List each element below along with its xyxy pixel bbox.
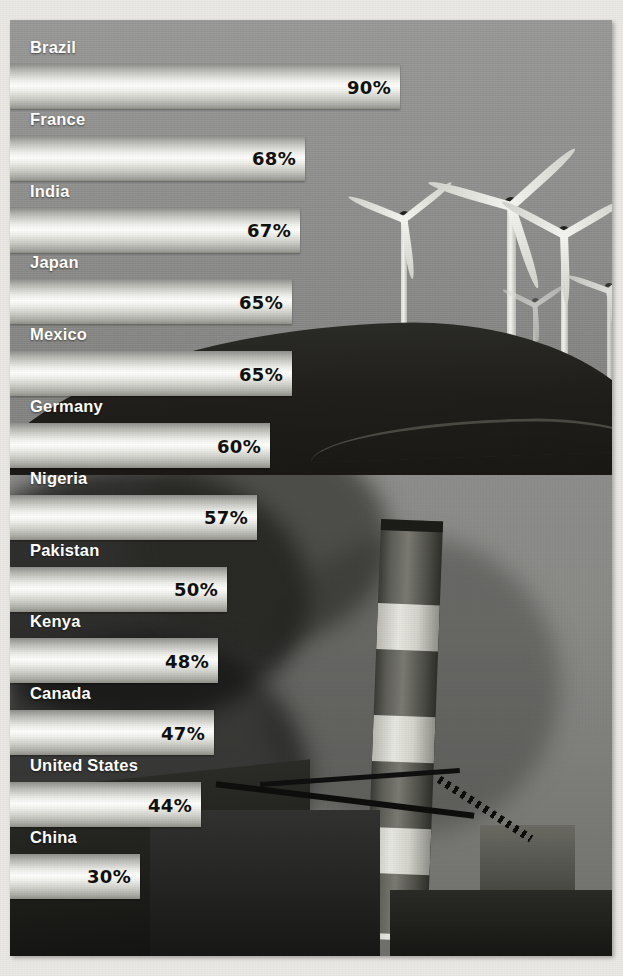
bar-category-label: Nigeria	[30, 469, 87, 488]
bar: 47%	[10, 710, 214, 755]
bar-chart-row: Canada47%	[10, 684, 612, 756]
bar-value-label: 50%	[174, 579, 218, 600]
bar-chart-row: France68%	[10, 110, 612, 182]
bar: 50%	[10, 567, 227, 612]
bar: 68%	[10, 136, 305, 181]
bar-value-label: 48%	[165, 650, 209, 671]
bar-category-label: Germany	[30, 397, 103, 416]
bar-chart-row: Kenya48%	[10, 612, 612, 684]
bar-value-label: 65%	[239, 291, 283, 312]
bar-value-label: 30%	[87, 866, 131, 887]
bar-category-label: Brazil	[30, 38, 76, 57]
background-photo-panel: Brazil90%France68%India67%Japan65%Mexico…	[10, 20, 612, 956]
bar: 57%	[10, 495, 257, 540]
bar-chart-row: Japan65%	[10, 253, 612, 325]
bar-value-label: 90%	[347, 76, 391, 97]
bar-category-label: France	[30, 110, 85, 129]
bar: 67%	[10, 208, 300, 253]
bar: 30%	[10, 854, 140, 899]
bar: 65%	[10, 351, 292, 396]
bar-chart-row: India67%	[10, 182, 612, 254]
bar-value-label: 65%	[239, 363, 283, 384]
bar-chart-row: United States44%	[10, 756, 612, 828]
bar: 44%	[10, 782, 201, 827]
bar-category-label: Japan	[30, 253, 79, 272]
bar-category-label: India	[30, 182, 70, 201]
bar-chart-row: Nigeria57%	[10, 469, 612, 541]
bar-category-label: United States	[30, 756, 138, 775]
bar: 48%	[10, 638, 218, 683]
bar-value-label: 47%	[161, 722, 205, 743]
bar-category-label: Mexico	[30, 325, 87, 344]
bar-value-label: 60%	[217, 435, 261, 456]
bar: 65%	[10, 279, 292, 324]
bar-category-label: Canada	[30, 684, 91, 703]
bar-chart-row: Germany60%	[10, 397, 612, 469]
bar-chart-row: Pakistan50%	[10, 541, 612, 613]
page: Brazil90%France68%India67%Japan65%Mexico…	[0, 0, 623, 976]
bar-chart: Brazil90%France68%India67%Japan65%Mexico…	[10, 20, 612, 956]
bar-chart-row: China30%	[10, 828, 612, 900]
bar: 90%	[10, 64, 400, 109]
bar-category-label: Kenya	[30, 612, 81, 631]
bar-value-label: 67%	[247, 220, 291, 241]
bar-value-label: 44%	[148, 794, 192, 815]
bar-chart-row: Mexico65%	[10, 325, 612, 397]
bar: 60%	[10, 423, 270, 468]
bar-value-label: 57%	[204, 507, 248, 528]
bar-category-label: Pakistan	[30, 541, 99, 560]
bar-value-label: 68%	[252, 148, 296, 169]
bar-category-label: China	[30, 828, 77, 847]
bar-chart-row: Brazil90%	[10, 38, 612, 110]
